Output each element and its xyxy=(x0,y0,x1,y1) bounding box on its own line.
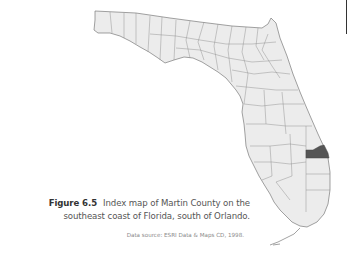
caption-line-1: Index map of Martin County on the xyxy=(103,198,250,208)
caption-line-2: southeast coast of Florida, south of Orl… xyxy=(63,211,250,221)
florida-keys-west xyxy=(273,244,280,245)
page-edge-rule xyxy=(346,0,347,34)
figure-label: Figure 6.5 xyxy=(49,198,97,208)
florida-outline xyxy=(94,11,330,227)
data-source-note: Data source: ESRI Data & Maps CD, 1998. xyxy=(127,232,244,238)
figure-caption: Figure 6.5Index map of Martin County on … xyxy=(10,197,250,223)
florida-keys xyxy=(270,228,300,245)
